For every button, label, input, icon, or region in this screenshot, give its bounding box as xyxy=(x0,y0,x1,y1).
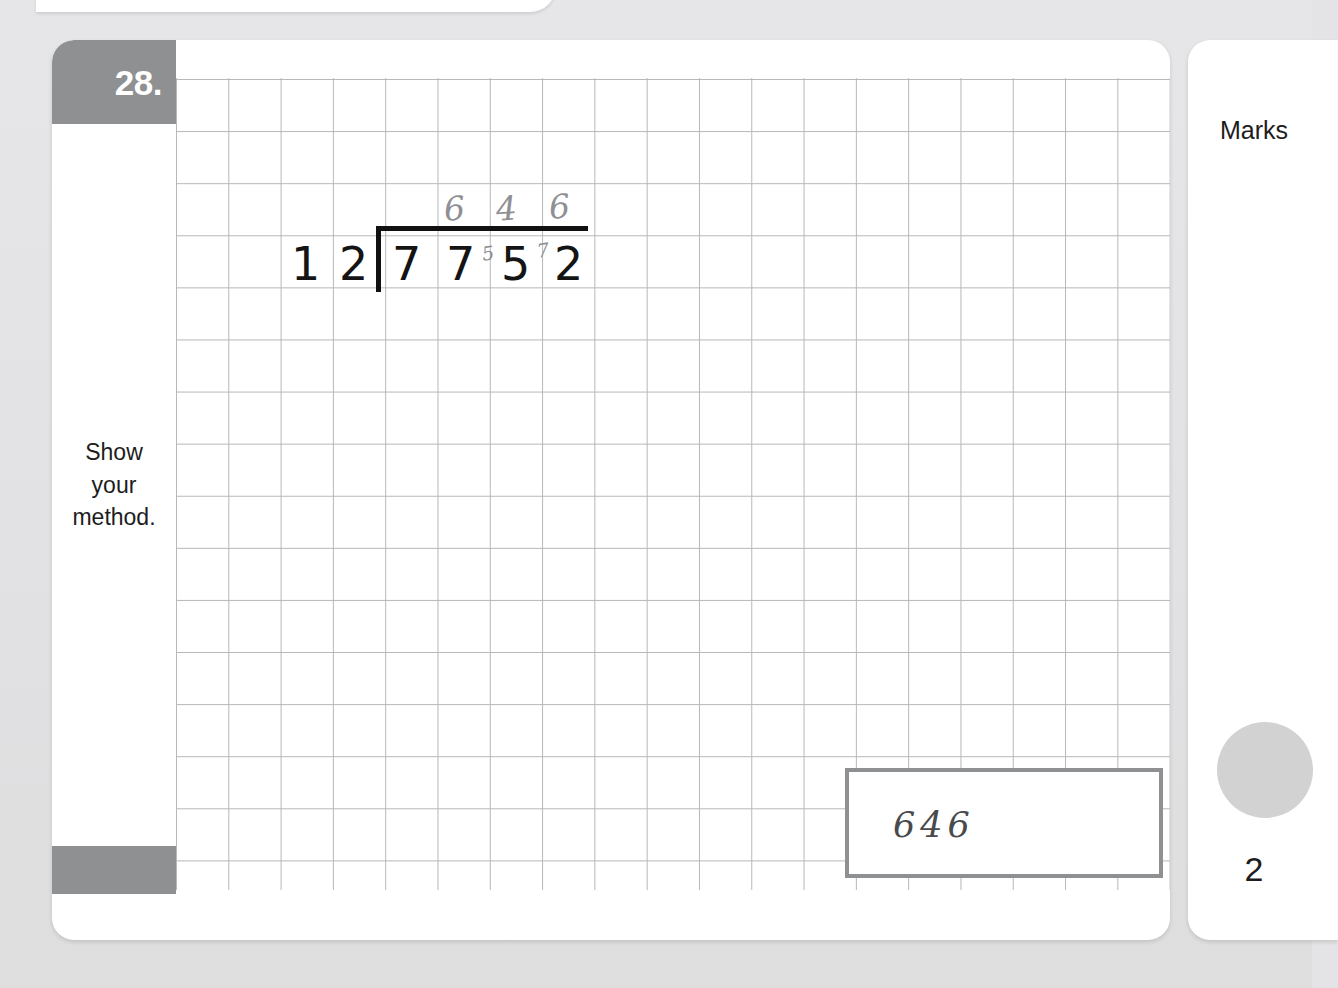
instruction-rail: Show your method. xyxy=(52,124,176,846)
question-number-block: 28. xyxy=(52,40,176,124)
question-footer-block xyxy=(52,846,176,894)
working-grid[interactable]: 6 4 6 1 2 7 7 5 2 5 7 646 xyxy=(176,78,1170,890)
marks-value-label: 2 xyxy=(1188,852,1320,886)
marks-panel: Marks 2 xyxy=(1188,40,1338,940)
answer-value: 646 xyxy=(893,808,975,843)
marks-bubble[interactable] xyxy=(1217,722,1313,818)
marks-title-label: Marks xyxy=(1220,118,1288,143)
question-card: 28. Show your method. 6 4 6 1 2 7 xyxy=(52,40,1170,940)
previous-question-card-edge xyxy=(36,0,556,12)
answer-box[interactable]: 646 xyxy=(845,768,1163,878)
show-your-method-label: Show your method. xyxy=(72,436,155,534)
question-number-label: 28. xyxy=(115,65,162,100)
